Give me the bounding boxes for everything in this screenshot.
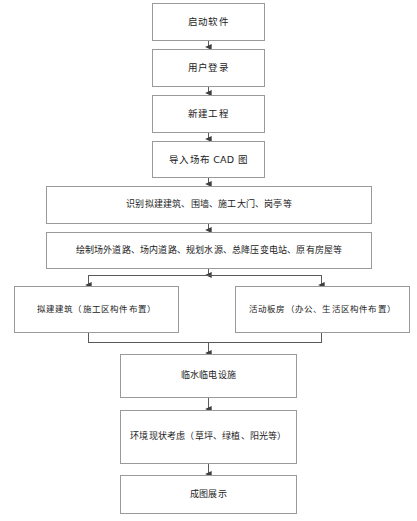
flow-node-label: 环境现状考虑（草坪、绿植、阳光等） <box>126 431 290 442</box>
flow-node-proposed-building-branch[interactable]: 拟建建筑（施工区构件布置） <box>14 286 179 333</box>
flow-node-label: 用户登录 <box>184 62 233 74</box>
flow-node-label: 活动板房（办公、生活区构件布置） <box>245 304 400 315</box>
flow-node-label: 新建工程 <box>184 108 233 120</box>
flow-node-label: 识别拟建建筑、围墙、施工大门、岗亭等 <box>122 199 296 210</box>
flow-node-new-project[interactable]: 新建工程 <box>152 95 265 133</box>
flow-node-label: 成图展示 <box>186 489 231 500</box>
flow-node-temp-water-power[interactable]: 临水临电设施 <box>120 354 297 398</box>
flow-node-label: 导入场布 CAD 图 <box>165 154 252 166</box>
flow-node-start-software[interactable]: 启动软件 <box>152 3 265 41</box>
flow-node-final-drawing-display[interactable]: 成图展示 <box>120 475 297 514</box>
flow-node-import-cad[interactable]: 导入场布 CAD 图 <box>152 141 265 178</box>
flow-node-prefab-housing-branch[interactable]: 活动板房（办公、生活区构件布置） <box>235 286 410 333</box>
flow-node-identify-structures[interactable]: 识别拟建建筑、围墙、施工大门、岗亭等 <box>46 186 372 224</box>
flow-node-label: 临水临电设施 <box>177 370 240 381</box>
flow-node-user-login[interactable]: 用户登录 <box>152 49 265 87</box>
flow-node-label: 启动软件 <box>184 16 233 28</box>
flowchart-canvas: 启动软件 用户登录 新建工程 导入场布 CAD 图 识别拟建建筑、围墙、施工大门… <box>0 0 417 521</box>
flow-node-environment-survey[interactable]: 环境现状考虑（草坪、绿植、阳光等） <box>120 410 297 464</box>
flow-node-label: 拟建建筑（施工区构件布置） <box>33 304 161 315</box>
flow-node-label: 绘制场外道路、场内道路、规划水源、总降压变电站、原有房屋等 <box>72 245 347 256</box>
flow-node-draw-roads-utilities[interactable]: 绘制场外道路、场内道路、规划水源、总降压变电站、原有房屋等 <box>46 232 372 269</box>
